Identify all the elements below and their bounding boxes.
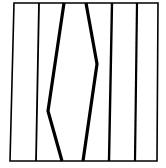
line-2-kinked xyxy=(48,3,64,161)
vertical-lines-group xyxy=(36,3,137,161)
line-diagram xyxy=(0,0,166,168)
line-3-kinked xyxy=(83,3,97,161)
line-4 xyxy=(109,3,112,161)
diagram-canvas xyxy=(0,0,166,168)
line-1 xyxy=(36,3,39,161)
line-5 xyxy=(135,3,137,161)
